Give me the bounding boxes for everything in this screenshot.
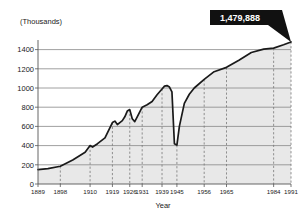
y-tick-label: 800 [21, 103, 34, 112]
x-tick-label: 1956 [197, 188, 211, 195]
x-tick-label: 1991 [284, 188, 298, 195]
x-tick-label: 1898 [53, 188, 67, 195]
y-tick-label: 1200 [17, 65, 34, 74]
x-tick-label: 1939 [155, 188, 169, 195]
x-tick-label: 1931 [135, 188, 149, 195]
y-tick-label: 200 [21, 161, 34, 170]
y-tick-label: 1400 [17, 45, 34, 54]
y-tick-label: 1000 [17, 84, 34, 93]
x-tick-label: 1889 [31, 188, 45, 195]
x-tick-label: 1965 [220, 188, 234, 195]
employment-area-chart: 0200400600800100012001400 18891898191019… [0, 0, 307, 217]
x-tick-label: 1910 [83, 188, 97, 195]
y-axis-unit-label: (Thousands) [20, 17, 63, 26]
callout-value-text: 1,479,888 [220, 13, 260, 23]
y-tick-label: 600 [21, 122, 34, 131]
x-axis-title: Year [155, 201, 171, 210]
y-tick-label: 400 [21, 141, 34, 150]
x-tick-label: 1945 [170, 188, 184, 195]
chart-container: 0200400600800100012001400 18891898191019… [0, 0, 307, 217]
x-tick-label: 1919 [106, 188, 120, 195]
x-tick-label: 1984 [267, 188, 281, 195]
